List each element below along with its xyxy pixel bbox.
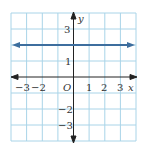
coordinate-graph: y x O −3 −2 1 2 3 3 1 −2 −3 <box>0 0 141 152</box>
y-axis-label: y <box>77 13 84 24</box>
x-tick-neg2: −2 <box>31 82 46 93</box>
origin-label: O <box>63 82 71 93</box>
x-tick-2: 2 <box>101 82 107 93</box>
y-tick-1: 1 <box>65 56 71 67</box>
axis-labels: y x O −3 −2 1 2 3 3 1 −2 −3 <box>15 13 134 131</box>
x-tick-1: 1 <box>86 82 92 93</box>
y-tick-neg3: −3 <box>58 120 73 131</box>
y-tick-neg2: −2 <box>58 104 73 115</box>
x-tick-3: 3 <box>117 82 123 93</box>
y-tick-3: 3 <box>64 24 70 35</box>
x-axis-label: x <box>128 82 134 93</box>
x-tick-neg3: −3 <box>15 82 30 93</box>
